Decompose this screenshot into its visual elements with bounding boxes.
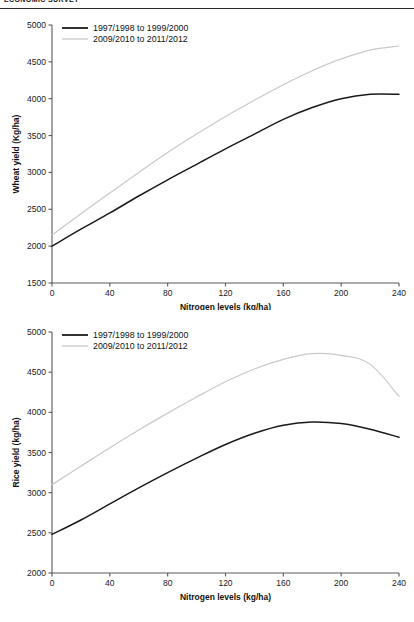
y-tick-label: 1500 bbox=[27, 278, 46, 288]
rice-plot-area: 2000250030003500400045005000040801201602… bbox=[11, 327, 406, 602]
y-tick-label: 2500 bbox=[27, 204, 46, 214]
legend-label-1: 1997/1998 to 1999/2000 bbox=[93, 23, 188, 33]
running-head: ECONOMIC SURVEY bbox=[4, 0, 79, 2]
x-tick-label: 240 bbox=[392, 288, 406, 298]
y-tick-label: 3500 bbox=[27, 448, 46, 458]
x-tick-label: 80 bbox=[163, 578, 173, 588]
chart-wheat-yield: 1500200025003000350040004500500004080120… bbox=[0, 14, 414, 310]
x-tick-label: 120 bbox=[218, 578, 232, 588]
series-line-period-2 bbox=[52, 46, 399, 235]
x-tick-label: 40 bbox=[105, 578, 115, 588]
x-tick-label: 160 bbox=[276, 288, 290, 298]
y-tick-label: 2000 bbox=[27, 568, 46, 578]
x-axis-title: Nitrogen levels (kg/ha) bbox=[180, 302, 271, 310]
y-tick-label: 3000 bbox=[27, 488, 46, 498]
y-tick-label: 4500 bbox=[27, 57, 46, 67]
series-line-period-2 bbox=[52, 353, 399, 484]
x-tick-label: 120 bbox=[218, 288, 232, 298]
x-tick-label: 0 bbox=[50, 288, 55, 298]
y-tick-label: 5000 bbox=[27, 20, 46, 30]
y-tick-label: 2500 bbox=[27, 528, 46, 538]
legend-label-2: 2009/2010 to 2011/2012 bbox=[93, 341, 188, 351]
y-tick-label: 4500 bbox=[27, 367, 46, 377]
x-tick-label: 40 bbox=[105, 288, 115, 298]
chart-rice-yield: 2000250030003500400045005000040801201602… bbox=[0, 320, 414, 620]
y-tick-label: 3000 bbox=[27, 167, 46, 177]
y-axis-title: Rice yield (kg/ha) bbox=[11, 417, 21, 487]
series-line-period-1 bbox=[52, 422, 399, 535]
y-tick-label: 4000 bbox=[27, 407, 46, 417]
wheat-plot-area: 1500200025003000350040004500500004080120… bbox=[11, 20, 406, 310]
x-tick-label: 200 bbox=[334, 288, 348, 298]
legend-label-1: 1997/1998 to 1999/2000 bbox=[93, 330, 188, 340]
y-axis-title: Wheat yield (Kg/ha) bbox=[11, 114, 21, 193]
x-axis-title: Nitrogen levels (kg/ha) bbox=[180, 592, 271, 602]
header-rule bbox=[0, 8, 414, 9]
legend-label-2: 2009/2010 to 2011/2012 bbox=[93, 34, 188, 44]
y-tick-label: 2000 bbox=[27, 241, 46, 251]
x-tick-label: 0 bbox=[50, 578, 55, 588]
y-tick-label: 4000 bbox=[27, 94, 46, 104]
x-tick-label: 200 bbox=[334, 578, 348, 588]
x-tick-label: 240 bbox=[392, 578, 406, 588]
y-tick-label: 3500 bbox=[27, 131, 46, 141]
rice-chart-svg: 2000250030003500400045005000040801201602… bbox=[0, 320, 414, 620]
x-tick-label: 160 bbox=[276, 578, 290, 588]
x-tick-label: 80 bbox=[163, 288, 173, 298]
page-root: ECONOMIC SURVEY 150020002500300035004000… bbox=[0, 0, 414, 622]
wheat-chart-svg: 1500200025003000350040004500500004080120… bbox=[0, 14, 414, 310]
y-tick-label: 5000 bbox=[27, 327, 46, 337]
